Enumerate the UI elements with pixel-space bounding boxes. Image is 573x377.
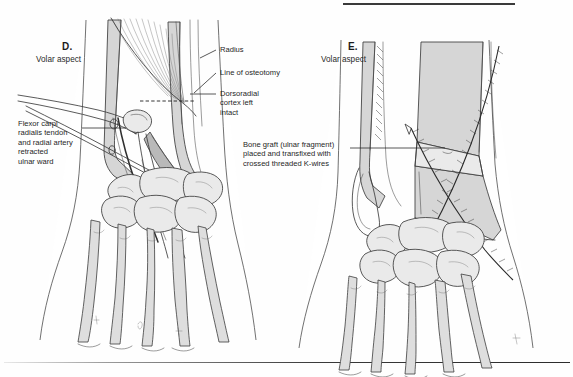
annotation-dorsoradial-cortex: Dorsoradial cortex left intact: [220, 89, 259, 117]
figure-canvas: D. Volar aspect Radius Line of osteotomy…: [0, 0, 573, 377]
annotation-line-of-osteotomy: Line of osteotomy: [220, 68, 280, 77]
panel-e-letter: E.: [348, 41, 358, 52]
panel-d-letter: D.: [62, 41, 72, 52]
annotation-flexor-carpi-radialis: Flexor carpi radialis tendon and radial …: [18, 119, 73, 166]
leader-lines: [0, 0, 573, 377]
panel-e-subtitle: Volar aspect: [321, 55, 366, 64]
annotation-bone-graft: Bone graft (ulnar fragment) placed and t…: [243, 140, 334, 168]
annotation-radius: Radius: [220, 45, 244, 54]
panel-d-subtitle: Volar aspect: [36, 55, 81, 64]
leader-radius: [200, 50, 216, 58]
leader-line-of-osteotomy: [194, 73, 216, 93]
